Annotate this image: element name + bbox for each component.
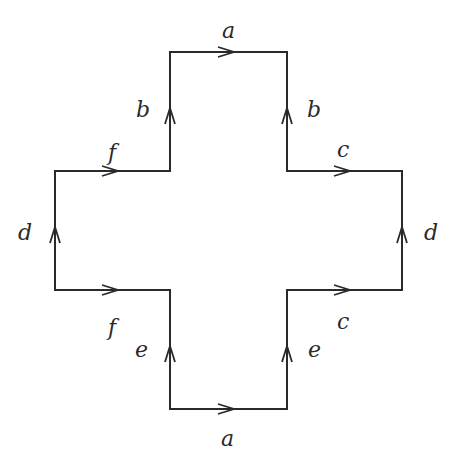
label-bottom-a: a [221, 426, 234, 451]
label-lower-right-e: e [308, 337, 321, 362]
cross-outline [55, 52, 402, 409]
label-upper-right-c: c [337, 137, 349, 162]
label-lower-left-e: e [135, 337, 148, 362]
label-left-d: d [18, 220, 32, 245]
label-upper-left-f: f [106, 140, 120, 165]
label-upper-left-b: b [136, 97, 150, 122]
label-right-d: d [424, 220, 438, 245]
label-lower-left-f: f [106, 315, 120, 340]
label-upper-right-b: b [307, 97, 321, 122]
label-top-a: a [222, 18, 235, 43]
label-lower-right-c: c [337, 309, 349, 334]
cross-polygon-diagram: a b b f c d d f c e e a [0, 0, 458, 469]
